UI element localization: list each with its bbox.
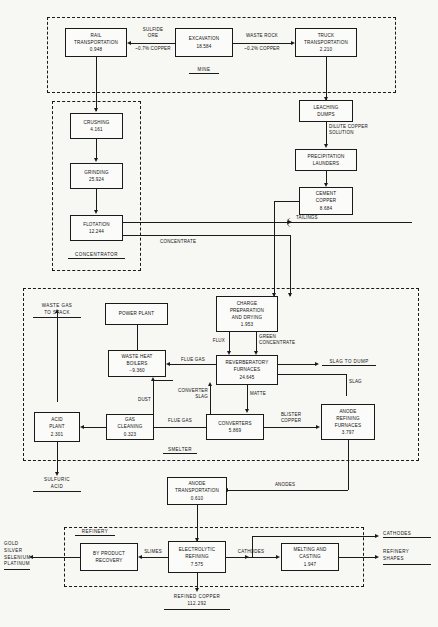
label-anodes: ANODES — [255, 482, 315, 489]
label-waste-rock-grade: ~0.2% COPPER — [234, 46, 290, 53]
node-acid-plant-line2: PLANT — [49, 423, 65, 430]
label-waste-gas-to-stack: WASTE GAS TO STACK — [33, 303, 81, 318]
node-grinding-line1: GRINDING — [84, 169, 108, 176]
node-grinding-value: 25.924 — [89, 176, 104, 183]
edge-flotation-tailings — [123, 222, 412, 223]
node-by-product-recovery-line2: RECOVERY — [95, 557, 122, 564]
node-crushing-line1: CRUSHING — [84, 119, 110, 126]
label-byproduct-platinum: PLATINUM — [4, 561, 30, 568]
label-refinery-shapes: REFINERY SHAPES — [383, 549, 431, 565]
edge-slag-to-dump-arrow — [315, 362, 319, 366]
flow-diagram-canvas: RAIL TRANSPORTATION 0.948 EXCAVATION 18.… — [0, 0, 438, 627]
node-electrolytic-refining: ELECTROLYTIC REFINING 7.575 — [168, 541, 226, 573]
node-electrolytic-refining-value: 7.575 — [191, 561, 203, 568]
node-reverberatory-furnaces-value: 24.645 — [239, 374, 254, 381]
edge-green-concentrate-down — [256, 332, 257, 353]
label-slag: SLAG — [349, 379, 379, 386]
node-excavation-line1: EXCAVATION — [189, 35, 219, 42]
edge-flux-down — [229, 332, 230, 353]
node-acid-plant: ACID PLANT 2.301 — [34, 412, 80, 442]
node-electrolytic-refining-line1: ELECTROLYTIC — [179, 546, 216, 553]
edge-acid-plant-up — [57, 312, 58, 402]
node-converters-line1: CONVERTERS — [218, 420, 252, 427]
node-converters-value: 5.869 — [229, 427, 241, 434]
edge-ore-to-rail — [131, 43, 175, 44]
label-refined-copper-text: REFINED COPPER — [164, 594, 230, 601]
edge-dust-top — [153, 380, 173, 381]
label-cathodes-mid: CATHODES — [226, 549, 276, 556]
node-acid-plant-line1: ACID — [51, 416, 63, 423]
label-refinery-shapes-line1: REFINERY — [383, 549, 431, 556]
node-melting-and-casting-line2: CASTING — [299, 553, 321, 560]
node-gas-cleaning: GAS CLEANING 0.323 — [106, 414, 154, 440]
node-power-plant: POWER PLANT — [105, 303, 168, 325]
edge-anodes-down — [348, 440, 349, 490]
node-excavation-value: 18.584 — [196, 43, 211, 50]
label-concentrate: CONCENTRATE — [160, 239, 230, 246]
node-waste-heat-boilers-line1: WASTE HEAT — [121, 353, 152, 360]
section-caption-mine: MINE — [189, 67, 219, 74]
node-crushing-value: 4.161 — [90, 126, 102, 133]
node-rail-transportation: RAIL TRANSPORTATION 0.948 — [65, 28, 127, 57]
node-waste-heat-boilers: WASTE HEAT BOILERS −9.360 — [108, 350, 166, 377]
edge-slag-to-dump — [278, 364, 316, 365]
node-anode-transportation-line2: TRANSPORTATION — [175, 487, 219, 494]
node-precipitation-launders-line2: LAUNDERS — [313, 160, 339, 167]
edge-slimes — [142, 557, 168, 558]
edge-flotation-concentrate — [123, 235, 290, 236]
edge-cathodes-branch-up — [252, 536, 253, 557]
node-anode-refining-furnaces-line1: ANODE — [339, 408, 356, 415]
node-precipitation-launders: PRECIPITATION LAUNDERS — [295, 149, 357, 171]
node-gas-cleaning-line1: GAS — [125, 416, 135, 423]
edge-leaching-to-precipitation-arrow — [324, 144, 328, 148]
edge-sulfuric-acid-down — [57, 442, 58, 474]
label-green-concentrate-line2: CONCENTRATE — [259, 340, 315, 347]
node-cement-copper-line1: CEMENT — [316, 190, 336, 197]
edge-truck-down — [326, 57, 327, 100]
edge-matte-arrow — [245, 409, 249, 413]
node-cement-copper: CEMENT COPPER 8.684 — [299, 187, 353, 215]
edge-blister-copper-arrow — [316, 425, 320, 429]
node-charge-preparation-line2: PREPARATION — [230, 307, 264, 314]
label-refinery-shapes-line2: SHAPES — [383, 556, 431, 563]
node-charge-preparation: CHARGE PREPARATION AND DRYING 1.953 — [216, 296, 278, 332]
edge-boilers-to-power-plant — [137, 325, 138, 350]
edge-refinery-shapes — [339, 557, 376, 558]
edge-slag-down — [346, 374, 347, 396]
edge-refined-copper-arrow — [195, 588, 199, 592]
node-melting-and-casting: MELTING AND CASTING 1.947 — [281, 543, 339, 571]
node-truck-transportation-line2: TRANSPORTATION — [304, 39, 348, 46]
node-rail-transportation-value: 0.948 — [90, 46, 102, 53]
node-truck-transportation-value: 2.210 — [320, 46, 332, 53]
label-flux: FLUX — [199, 338, 225, 345]
node-flotation-line1: FLOTATION — [83, 221, 110, 228]
node-anode-refining-furnaces-line2: REFINING — [336, 415, 359, 422]
label-tailings: TAILINGS — [296, 215, 356, 222]
edge-matte-down — [247, 385, 248, 411]
edge-concentrate-down — [290, 235, 291, 296]
section-caption-refinery: REFINERY — [75, 529, 115, 536]
node-electrolytic-refining-line2: REFINING — [185, 553, 208, 560]
label-refined-copper: REFINED COPPER 112.292 — [164, 594, 230, 610]
node-waste-heat-boilers-value: −9.360 — [129, 367, 144, 374]
node-anode-transportation-value: 0.610 — [191, 495, 203, 502]
node-melting-and-casting-line1: MELTING AND — [294, 546, 327, 553]
section-caption-concentrator: CONCENTRATOR — [68, 252, 125, 259]
label-cathodes-out: CATHODES — [383, 531, 431, 538]
edge-waste-rock-arrow — [291, 41, 295, 45]
node-anode-refining-furnaces: ANODE REFINING FURNACES 3.797 — [321, 404, 375, 440]
node-converters: CONVERTERS 5.869 — [206, 414, 264, 440]
label-byproducts: GOLD SILVER SELENIUM PLATINUM — [4, 541, 30, 570]
node-charge-preparation-line3: AND DRYING — [232, 314, 263, 321]
edge-cathodes-main-arrow — [276, 555, 280, 559]
edge-cathodes-main — [226, 557, 277, 558]
node-truck-transportation-line1: TRUCK — [318, 32, 335, 39]
node-reverberatory-furnaces: REVERBERATORY FURNACES 24.645 — [216, 355, 278, 385]
label-sulfide-ore-grade: ~0.7% COPPER — [126, 46, 180, 53]
edge-grinding-to-flotation — [96, 189, 97, 211]
edge-concentrate-line-hop — [287, 218, 295, 227]
node-flotation-value: 12.244 — [89, 228, 104, 235]
edge-blister-copper — [264, 427, 317, 428]
edge-cathodes-out-arrow — [375, 534, 379, 538]
edge-dust-arrow — [151, 377, 155, 381]
